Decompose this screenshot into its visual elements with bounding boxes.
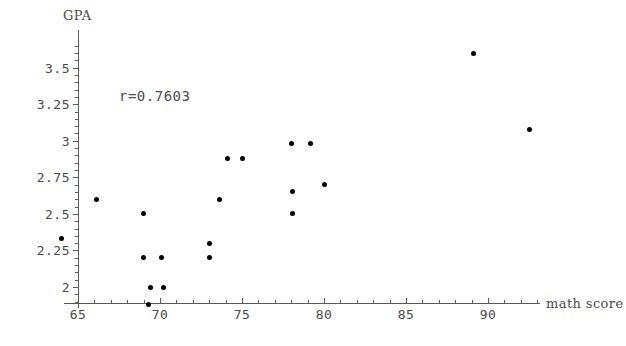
- x-axis-minor-tick: [422, 300, 423, 304]
- data-point: [217, 197, 222, 202]
- y-axis-minor-tick: [75, 258, 79, 259]
- x-axis-minor-tick: [439, 300, 440, 304]
- y-axis-minor-tick: [75, 163, 79, 164]
- x-axis-minor-tick: [537, 300, 538, 304]
- y-axis-minor-tick: [75, 229, 79, 230]
- x-axis-minor-tick: [258, 300, 259, 304]
- scatter-plot-figure: 22.252.52.7533.253.5657075808590 GPA mat…: [0, 0, 626, 346]
- y-axis-minor-tick: [75, 192, 79, 193]
- x-axis-minor-tick: [226, 300, 227, 304]
- data-point: [207, 241, 212, 246]
- data-point: [146, 302, 151, 307]
- x-axis-minor-tick: [127, 300, 128, 304]
- data-point: [527, 127, 532, 132]
- x-axis-minor-tick: [340, 300, 341, 304]
- x-axis-minor-tick: [291, 300, 292, 304]
- y-axis-tick: [73, 68, 79, 69]
- data-point: [471, 51, 476, 56]
- y-axis-tick: [73, 214, 79, 215]
- correlation-annotation: r=0.7603: [119, 88, 190, 104]
- x-axis-minor-tick: [390, 300, 391, 304]
- x-axis-minor-tick: [144, 300, 145, 304]
- y-axis-tick-label: 3.25: [37, 97, 70, 112]
- y-axis-minor-tick: [75, 236, 79, 237]
- x-axis-minor-tick: [455, 300, 456, 304]
- x-axis-minor-tick: [521, 300, 522, 304]
- y-axis-minor-tick: [75, 221, 79, 222]
- y-axis-tick: [73, 250, 79, 251]
- x-axis-title: math score: [546, 296, 624, 311]
- y-axis-minor-tick: [75, 148, 79, 149]
- y-axis-minor-tick: [75, 126, 79, 127]
- x-axis-tick: [406, 298, 407, 304]
- y-axis-line: [78, 30, 79, 308]
- y-axis-minor-tick: [75, 75, 79, 76]
- y-axis-minor-tick: [75, 53, 79, 54]
- y-axis-minor-tick: [75, 46, 79, 47]
- data-point: [161, 285, 166, 290]
- y-axis-minor-tick: [75, 185, 79, 186]
- x-axis-minor-tick: [209, 300, 210, 304]
- y-axis-minor-tick: [75, 294, 79, 295]
- x-axis-tick-label: 80: [316, 307, 333, 322]
- y-axis-tick-label: 3: [62, 133, 70, 148]
- y-axis-title: GPA: [63, 8, 92, 23]
- data-point: [159, 255, 164, 260]
- data-point: [141, 255, 146, 260]
- x-axis-minor-tick: [275, 300, 276, 304]
- data-point: [141, 211, 146, 216]
- data-point: [322, 182, 327, 187]
- x-axis-tick: [160, 298, 161, 304]
- y-axis-minor-tick: [75, 272, 79, 273]
- x-axis-minor-tick: [504, 300, 505, 304]
- y-axis-minor-tick: [75, 280, 79, 281]
- data-point: [148, 285, 153, 290]
- x-axis-tick: [242, 298, 243, 304]
- data-point: [289, 141, 294, 146]
- y-axis-tick: [73, 104, 79, 105]
- data-point: [94, 197, 99, 202]
- y-axis-tick-label: 2: [62, 280, 70, 295]
- x-axis-tick: [78, 298, 79, 304]
- x-axis-tick-label: 70: [152, 307, 169, 322]
- y-axis-tick: [73, 177, 79, 178]
- x-axis-minor-tick: [357, 300, 358, 304]
- data-point: [59, 236, 64, 241]
- y-axis-minor-tick: [75, 155, 79, 156]
- x-axis-tick: [488, 298, 489, 304]
- data-point: [290, 211, 295, 216]
- y-axis-minor-tick: [75, 207, 79, 208]
- y-axis-minor-tick: [75, 60, 79, 61]
- x-axis-minor-tick: [472, 300, 473, 304]
- y-axis-minor-tick: [75, 82, 79, 83]
- y-axis-tick-label: 2.25: [37, 243, 70, 258]
- y-axis-minor-tick: [75, 112, 79, 113]
- data-point: [207, 255, 212, 260]
- y-axis-minor-tick: [75, 119, 79, 120]
- x-axis-minor-tick: [94, 300, 95, 304]
- y-axis-minor-tick: [75, 199, 79, 200]
- plot-area: 22.252.52.7533.253.5657075808590 GPA mat…: [0, 0, 626, 346]
- data-point: [240, 156, 245, 161]
- x-axis-minor-tick: [176, 300, 177, 304]
- x-axis-tick-label: 90: [480, 307, 497, 322]
- x-axis-minor-tick: [373, 300, 374, 304]
- y-axis-tick-label: 2.5: [45, 206, 70, 221]
- data-point: [225, 156, 230, 161]
- x-axis-minor-tick: [308, 300, 309, 304]
- y-axis-tick: [73, 287, 79, 288]
- y-axis-minor-tick: [75, 133, 79, 134]
- x-axis-tick-label: 85: [398, 307, 415, 322]
- data-point: [308, 141, 313, 146]
- data-point: [290, 189, 295, 194]
- x-axis-tick-label: 75: [234, 307, 251, 322]
- y-axis-minor-tick: [75, 265, 79, 266]
- x-axis-minor-tick: [111, 300, 112, 304]
- y-axis-minor-tick: [75, 243, 79, 244]
- y-axis-minor-tick: [75, 90, 79, 91]
- y-axis-tick-label: 2.75: [37, 170, 70, 185]
- x-axis-line: [64, 303, 540, 304]
- y-axis-tick-label: 3.5: [45, 60, 70, 75]
- x-axis-minor-tick: [193, 300, 194, 304]
- y-axis-minor-tick: [75, 170, 79, 171]
